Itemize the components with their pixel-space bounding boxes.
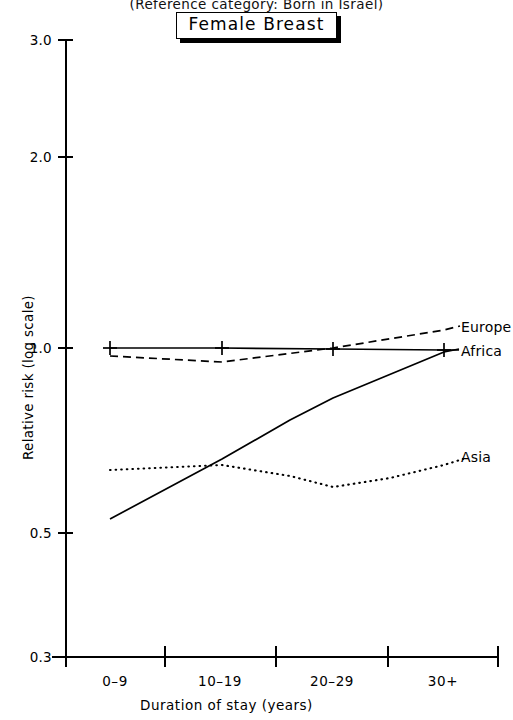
series-line-ascending [110, 349, 459, 519]
series-line-asia [110, 459, 463, 487]
chart-page: (Reference category: Born in Israel) Fem… [0, 0, 513, 720]
series-line-europe [110, 326, 460, 362]
series-label-europe: Europe [461, 319, 511, 335]
series-label-asia: Asia [461, 449, 491, 465]
series-lines [0, 0, 513, 720]
series-label-africa: Africa [461, 343, 502, 359]
series-line-africa [110, 348, 459, 350]
plot-area: 3.0 2.0 1.0 0.5 0.3 Relative risk (log s… [0, 0, 513, 720]
